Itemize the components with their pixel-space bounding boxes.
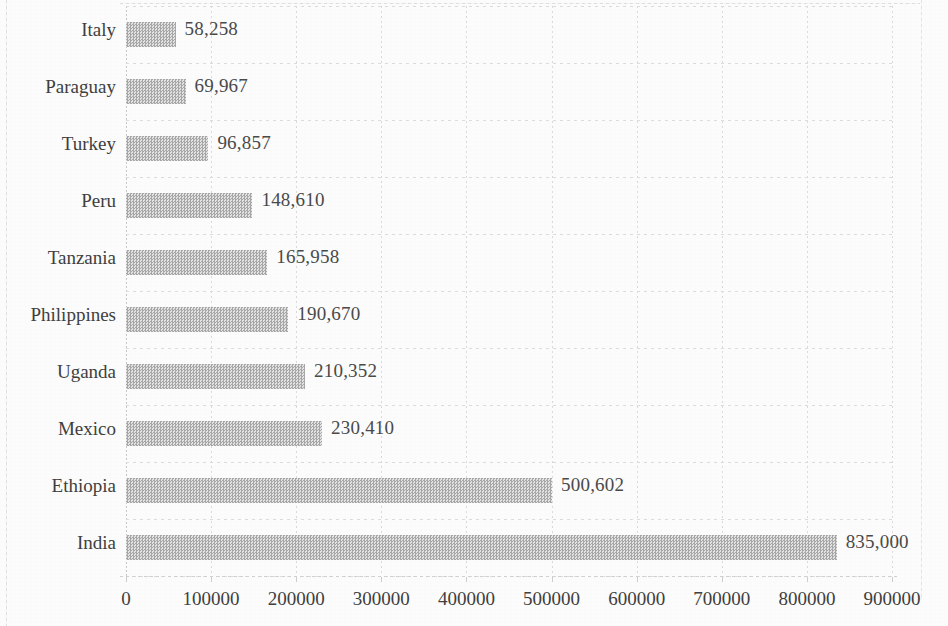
bar-row: 96,857 [126, 120, 892, 177]
category-label-india: India [6, 532, 116, 554]
tick-label-100000: 100000 [183, 588, 240, 610]
tick-label-500000: 500000 [523, 588, 580, 610]
tick-mark-600000 [637, 577, 638, 582]
bar-value-label: 210,352 [314, 360, 377, 382]
bar-value-label: 96,857 [217, 132, 270, 154]
category-label-mexico: Mexico [6, 418, 116, 440]
bar-ethiopia[interactable] [126, 478, 552, 503]
bar-peru[interactable] [126, 193, 252, 218]
bar-row: 148,610 [126, 177, 892, 234]
page-edge-right [921, 0, 922, 600]
bar-mexico[interactable] [126, 421, 322, 446]
bar-italy[interactable] [126, 22, 176, 47]
category-axis-labels: ItalyParaguayTurkeyPeruTanzaniaPhilippin… [0, 6, 116, 576]
bar-paraguay[interactable] [126, 79, 186, 104]
bar-row: 190,670 [126, 291, 892, 348]
chart-page: ItalyParaguayTurkeyPeruTanzaniaPhilippin… [0, 0, 948, 626]
plot-area: 58,25869,96796,857148,610165,958190,6702… [126, 6, 892, 576]
bar-india[interactable] [126, 535, 837, 560]
tick-mark-200000 [296, 577, 297, 582]
bar-row: 69,967 [126, 63, 892, 120]
value-axis: 0100000200000300000400000500000600000700… [126, 576, 892, 622]
tick-mark-400000 [466, 577, 467, 582]
bar-row: 230,410 [126, 405, 892, 462]
bar-row: 835,000 [126, 519, 892, 576]
category-label-uganda: Uganda [6, 361, 116, 383]
tick-label-200000: 200000 [268, 588, 325, 610]
tick-mark-0 [126, 577, 127, 582]
bar-value-label: 190,670 [297, 303, 360, 325]
tick-label-700000: 700000 [693, 588, 750, 610]
category-label-italy: Italy [6, 19, 116, 41]
tick-mark-800000 [807, 577, 808, 582]
bar-row: 58,258 [126, 6, 892, 63]
tick-label-600000: 600000 [608, 588, 665, 610]
category-label-turkey: Turkey [6, 133, 116, 155]
category-label-paraguay: Paraguay [6, 76, 116, 98]
category-label-peru: Peru [6, 190, 116, 212]
tick-label-400000: 400000 [438, 588, 495, 610]
bar-turkey[interactable] [126, 136, 208, 161]
category-label-ethiopia: Ethiopia [6, 475, 116, 497]
bar-tanzania[interactable] [126, 250, 267, 275]
bar-value-label: 69,967 [195, 75, 248, 97]
tick-mark-300000 [381, 577, 382, 582]
bar-philippines[interactable] [126, 307, 288, 332]
bar-row: 165,958 [126, 234, 892, 291]
tick-mark-900000 [892, 577, 893, 582]
tick-mark-700000 [722, 577, 723, 582]
tick-mark-500000 [552, 577, 553, 582]
tick-label-800000: 800000 [778, 588, 835, 610]
bar-value-label: 500,602 [561, 474, 624, 496]
bar-value-label: 148,610 [261, 189, 324, 211]
bar-value-label: 230,410 [331, 417, 394, 439]
page-edge-top [120, 3, 920, 4]
category-label-tanzania: Tanzania [6, 247, 116, 269]
category-label-philippines: Philippines [6, 304, 116, 326]
bar-row: 210,352 [126, 348, 892, 405]
value-axis-line [120, 576, 898, 577]
bar-row: 500,602 [126, 462, 892, 519]
bar-value-label: 58,258 [185, 18, 238, 40]
bar-value-label: 835,000 [846, 531, 909, 553]
bar-value-label: 165,958 [276, 246, 339, 268]
tick-label-900000: 900000 [864, 588, 921, 610]
bar-uganda[interactable] [126, 364, 305, 389]
gridline-900000 [892, 6, 893, 576]
tick-label-300000: 300000 [353, 588, 410, 610]
tick-mark-100000 [211, 577, 212, 582]
tick-label-0: 0 [121, 588, 131, 610]
